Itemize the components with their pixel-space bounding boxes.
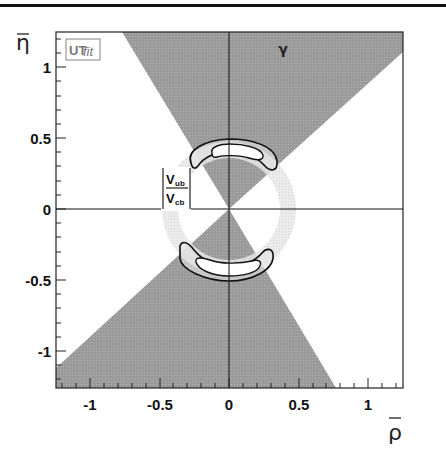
y-tick-label: 0: [43, 201, 51, 218]
y-tick-label: 0.5: [30, 130, 51, 147]
x-tick-label: -0.5: [147, 396, 173, 413]
svg-text:ρ: ρ: [388, 420, 402, 445]
svg-text:ub: ub: [175, 179, 185, 188]
ut-fit-plot: -1 -0.5 0 0.5 1 1 0.5 0 -0.5 -1 ρ η UT f…: [0, 0, 446, 457]
gamma-wedge-lower: [56, 209, 336, 388]
svg-text:V: V: [166, 191, 175, 206]
x-tick-label: -1: [83, 396, 96, 413]
utfit-logo: UT fit: [66, 39, 100, 60]
svg-text:V: V: [166, 172, 175, 187]
y-axis-title: η: [16, 30, 30, 55]
vub-vcb-label: V ub V cb: [161, 167, 191, 211]
y-axis-ticks: [56, 39, 66, 379]
svg-text:η: η: [16, 30, 30, 55]
gamma-label: γ: [278, 41, 288, 57]
x-tick-label: 0: [225, 396, 233, 413]
x-axis-title: ρ: [388, 418, 402, 445]
x-tick-label: 0.5: [289, 396, 310, 413]
x-tick-label: 1: [364, 396, 372, 413]
y-tick-label: -1: [38, 343, 51, 360]
y-tick-label: -0.5: [25, 272, 51, 289]
svg-text:cb: cb: [175, 198, 184, 207]
y-tick-label: 1: [43, 59, 51, 76]
svg-text:fit: fit: [83, 44, 95, 59]
